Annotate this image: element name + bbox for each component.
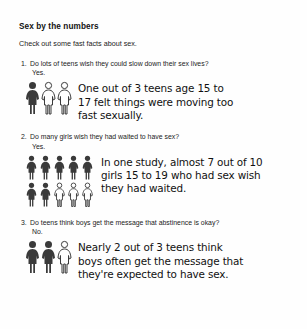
female-figure-icon	[25, 240, 40, 275]
question-text-1: Do lots of teens wish they could slow do…	[30, 59, 293, 68]
female-figure-icon	[25, 155, 38, 181]
pictogram-row	[25, 182, 94, 208]
fact-callout-3: Nearly 2 out of 3 teens think boys often…	[19, 240, 293, 281]
fact-text-line: In one study, almost 7 out of 10	[101, 156, 293, 169]
pictogram-row	[25, 155, 94, 181]
pictogram-row	[25, 81, 72, 116]
question-line-1: 1. Do lots of teens wish they could slow…	[19, 59, 293, 68]
question-number-1: 1.	[19, 59, 30, 68]
female-figure-icon	[67, 155, 80, 181]
qa-block-1: 1. Do lots of teens wish they could slow…	[19, 59, 293, 78]
female-figure-icon	[53, 155, 66, 181]
question-line-3: 3. Do teens think boys get the message t…	[19, 218, 293, 227]
pictogram-2	[19, 155, 101, 208]
pictogram-1	[19, 81, 78, 116]
fact-text-line: fast sexually.	[78, 109, 293, 122]
fact-text-3: Nearly 2 out of 3 teens think boys often…	[78, 240, 293, 281]
question-number-3: 3.	[19, 218, 30, 227]
female-figure-icon	[25, 182, 38, 208]
fact-text-line: Nearly 2 out of 3 teens think	[78, 241, 293, 254]
question-number-2: 2.	[19, 132, 30, 141]
question-line-2: 2. Do many girls wish they had waited to…	[19, 132, 293, 141]
qa-block-2: 2. Do many girls wish they had waited to…	[19, 132, 293, 151]
female-figure-icon	[57, 81, 72, 116]
pictogram-3	[19, 240, 78, 275]
fact-callout-1: One out of 3 teens age 15 to 17 felt thi…	[19, 81, 293, 122]
female-figure-icon	[81, 182, 94, 208]
fact-text-line: they had waited.	[101, 182, 293, 195]
female-figure-icon	[25, 81, 40, 116]
female-figure-icon	[81, 155, 94, 181]
fact-text-line: girls 15 to 19 who had sex wish	[101, 169, 293, 182]
fact-callout-2: In one study, almost 7 out of 10 girls 1…	[19, 155, 293, 208]
document-page: Sex by the numbers Check out some fast f…	[0, 0, 307, 329]
female-figure-icon	[67, 182, 80, 208]
female-figure-icon	[57, 240, 72, 275]
question-text-2: Do many girls wish they had waited to ha…	[30, 132, 293, 141]
page-title: Sex by the numbers	[19, 22, 293, 31]
fact-text-1: One out of 3 teens age 15 to 17 felt thi…	[78, 81, 293, 122]
qa-block-3: 3. Do teens think boys get the message t…	[19, 218, 293, 237]
female-figure-icon	[41, 240, 56, 275]
question-text-3: Do teens think boys get the message that…	[30, 218, 293, 227]
fact-text-line: One out of 3 teens age 15 to	[78, 82, 293, 95]
fact-text-line: 17 felt things were moving too	[78, 96, 293, 109]
pictogram-row	[25, 240, 72, 275]
female-figure-icon	[39, 182, 52, 208]
fact-text-2: In one study, almost 7 out of 10 girls 1…	[101, 155, 293, 196]
fact-text-line: boys often get the message that	[78, 255, 293, 268]
answer-text-1: Yes.	[19, 68, 293, 77]
intro-text: Check out some fast facts about sex.	[19, 40, 293, 49]
answer-text-2: Yes.	[19, 142, 293, 151]
answer-text-3: No.	[19, 227, 293, 236]
female-figure-icon	[39, 155, 52, 181]
female-figure-icon	[41, 81, 56, 116]
female-figure-icon	[53, 182, 66, 208]
fact-text-line: they're expected to have sex.	[78, 268, 293, 281]
